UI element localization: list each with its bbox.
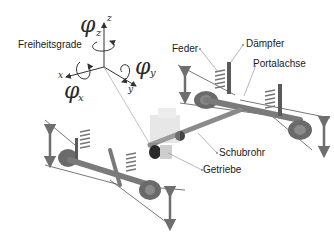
- getriebe-label: Getriebe: [203, 165, 241, 175]
- axis-x-label: x: [58, 71, 63, 80]
- phi-z-subscript: z: [96, 28, 101, 38]
- daempfer-label: Dämpfer: [246, 39, 284, 49]
- phi-y-symbol: φ: [135, 56, 150, 78]
- suspension-diagram: Freiheitsgrade z x y φ z φ x φ y Feder D…: [0, 0, 334, 242]
- phi-z-symbol: φ: [80, 14, 95, 36]
- phi-y-subscript: y: [150, 68, 156, 78]
- feder-label: Feder: [172, 44, 198, 54]
- axis-z-label: z: [107, 14, 112, 23]
- schubrohr-label: Schubrohr: [219, 148, 265, 158]
- axis-y-label: y: [128, 85, 133, 94]
- portalachse-label: Portalachse: [253, 59, 306, 69]
- freiheitsgrade-label: Freiheitsgrade: [18, 40, 82, 50]
- suspension-illustration: [0, 0, 334, 242]
- engine-ghost: [150, 108, 180, 143]
- phi-x-subscript: x: [78, 93, 84, 103]
